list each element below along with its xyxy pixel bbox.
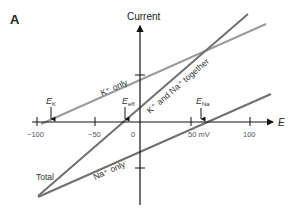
total-line <box>38 14 248 196</box>
tick-label-minus-50: −50 <box>88 130 101 139</box>
na-only-label: Na⁺ only <box>92 159 128 182</box>
k-only-label: K⁺ only <box>99 77 130 98</box>
eeff-marker: Eeff <box>122 96 135 119</box>
y-axis-title: Current <box>127 11 161 22</box>
ek-marker: EK <box>46 96 56 119</box>
svg-text:Eeff: Eeff <box>122 96 135 107</box>
iv-curve-diagram: A −100 −50 0 50 mV 100 Current E K⁺ only… <box>0 0 301 215</box>
total-label: Total <box>36 172 54 182</box>
tick-label-50: 50 mV <box>188 130 210 139</box>
svg-text:EK: EK <box>46 96 56 107</box>
panel-label: A <box>10 12 20 27</box>
svg-text:ENa: ENa <box>196 96 210 107</box>
tick-label-minus-100: −100 <box>27 130 44 139</box>
ena-marker: ENa <box>196 96 210 119</box>
tick-label-0: 0 <box>131 130 135 139</box>
tick-label-100: 100 <box>243 130 256 139</box>
x-axis-title: E <box>278 117 285 128</box>
